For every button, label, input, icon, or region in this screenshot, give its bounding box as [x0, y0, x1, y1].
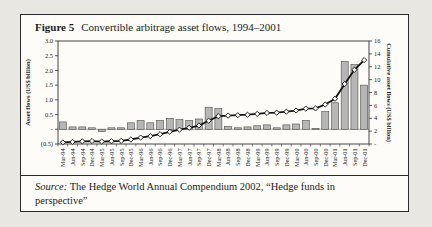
x-axis-label: Jun-99	[263, 149, 270, 166]
divider	[21, 175, 408, 176]
asset-flow-bar	[137, 120, 144, 129]
asset-flow-bar	[341, 62, 348, 130]
asset-flow-bar	[127, 123, 134, 129]
x-axis-label: Mar-97	[176, 149, 183, 167]
source-note: Source: The Hedge World Annual Compendiu…	[35, 180, 365, 207]
x-axis-label: Mar-96	[137, 149, 144, 167]
asset-flow-bar	[118, 128, 125, 129]
x-axis-label: Jun-97	[186, 149, 193, 166]
asset-flow-bar	[69, 127, 76, 129]
x-axis-label: Dec-95	[127, 149, 134, 167]
asset-flow-bar	[89, 128, 96, 129]
right-axis-tick-label: 10	[374, 76, 380, 83]
asset-flow-bar	[254, 126, 261, 130]
left-axis-tick-label: 2.5	[45, 52, 53, 59]
right-axis-tick-label: 16	[374, 37, 380, 44]
asset-flow-bar	[263, 125, 270, 129]
left-axis-tick-label: 0.5	[45, 111, 53, 118]
right-axis-tick-label: 6	[374, 102, 377, 109]
left-axis-tick-label: 3.0	[45, 37, 53, 44]
x-axis-label: Mar-98	[215, 149, 222, 167]
x-axis-label: Dec-98	[244, 149, 251, 167]
x-axis-label: Jun-00	[302, 149, 309, 166]
asset-flow-bar	[273, 128, 280, 129]
x-axis-label: Mar-99	[254, 149, 261, 167]
asset-flow-bar	[234, 128, 241, 129]
x-axis-label: Jun-96	[147, 149, 154, 166]
x-axis-label: Jun-95	[108, 149, 115, 166]
x-axis-label: Dec-96	[166, 149, 173, 167]
x-axis-label: Dec-00	[322, 149, 329, 167]
x-axis-label: Dec-99	[283, 149, 290, 167]
x-axis-label: Sep-95	[118, 149, 125, 167]
asset-flow-bar	[312, 128, 319, 129]
x-axis-label: Dec-94	[88, 149, 95, 167]
right-axis-tick-label: 12	[374, 63, 380, 70]
x-axis-label: Dec-01	[361, 149, 368, 167]
x-axis-label: Dec-97	[205, 149, 212, 167]
x-axis-label: Sep-96	[156, 149, 163, 167]
asset-flow-bar	[283, 125, 290, 129]
asset-flow-bar	[98, 129, 105, 131]
x-axis-label: Jun-01	[341, 149, 348, 166]
asset-flow-bar	[302, 120, 309, 129]
asset-flow-bar	[166, 118, 173, 129]
asset-flow-bar	[59, 122, 66, 129]
right-axis-tick-label: 4	[374, 114, 378, 121]
right-axis-tick-label: 8	[374, 89, 377, 96]
x-axis-label: Mar-94	[59, 149, 66, 167]
left-axis-tick-label: 1.0	[45, 96, 53, 103]
asset-flow-bar	[244, 127, 251, 129]
x-axis-label: Mar-01	[331, 149, 338, 167]
asset-flow-bar	[79, 127, 86, 129]
x-axis-label: Mar-00	[293, 149, 300, 167]
asset-flow-bar	[225, 126, 232, 129]
asset-flow-bar	[108, 128, 115, 129]
x-axis-label: Sep-98	[234, 149, 241, 167]
source-text: The Hedge World Annual Compendium 2002, …	[35, 181, 335, 206]
x-axis-label: Sep-94	[79, 149, 86, 167]
figure-title-text: Convertible arbitrage asset flows, 1994–…	[81, 21, 281, 33]
x-axis-label: Sep-99	[273, 149, 280, 167]
asset-flow-bar	[361, 85, 368, 129]
figure-label: Figure 5	[35, 21, 74, 33]
asset-flow-bar	[147, 123, 154, 129]
x-axis-label: Sep-00	[312, 149, 319, 167]
asset-flow-bar	[322, 112, 329, 130]
x-axis-label: Mar-95	[98, 149, 105, 167]
x-axis-label: Sep-97	[195, 149, 202, 167]
asset-flow-bar	[331, 103, 338, 129]
x-axis-label: Jun-98	[224, 149, 231, 166]
right-axis-tick-label: -	[374, 140, 376, 147]
asset-flow-bar	[157, 120, 164, 129]
x-axis-label: Sep-01	[351, 149, 358, 167]
left-axis-tick-label: (0.5)	[41, 140, 53, 148]
figure-box: Figure 5Convertible arbitrage asset flow…	[20, 14, 409, 212]
figure-title: Figure 5Convertible arbitrage asset flow…	[35, 21, 400, 33]
left-axis-tick-label: 1.5	[45, 81, 53, 88]
left-axis-tick-label: -	[51, 125, 53, 132]
asset-flow-bar	[293, 124, 300, 129]
right-axis-tick-label: 2	[374, 127, 377, 134]
right-axis-tick-label: 14	[374, 50, 381, 57]
left-axis-tick-label: 2.0	[45, 67, 53, 74]
left-axis-title: Asset flows (US$ billion)	[24, 59, 32, 126]
x-axis-label: Jun-94	[69, 149, 76, 166]
right-axis-title: Cumulative asset flows (US$ billion)	[385, 43, 393, 142]
chart-svg: 3.02.52.01.51.00.5-(0.5)161412108642-Mar…	[21, 37, 410, 175]
page: Figure 5Convertible arbitrage asset flow…	[0, 0, 432, 227]
source-label: Source:	[35, 181, 67, 192]
